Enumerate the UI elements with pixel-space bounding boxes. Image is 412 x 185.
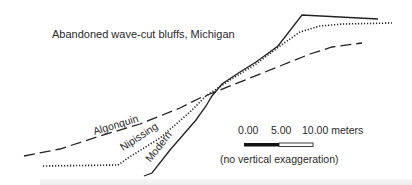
- scale-bar: [244, 143, 313, 147]
- scale-tick-10: 10.00 meters: [302, 124, 363, 136]
- scale-tick-5: 5.00: [271, 124, 291, 136]
- scan-edge: [40, 179, 412, 185]
- nipissing-profile-line: [43, 23, 392, 166]
- scale-note: (no vertical exaggeration): [220, 153, 338, 165]
- algonquin-profile-line: [24, 43, 362, 156]
- diagram-title: Abandoned wave-cut bluffs, Michigan: [52, 28, 235, 40]
- scale-tick-0: 0.00: [238, 124, 258, 136]
